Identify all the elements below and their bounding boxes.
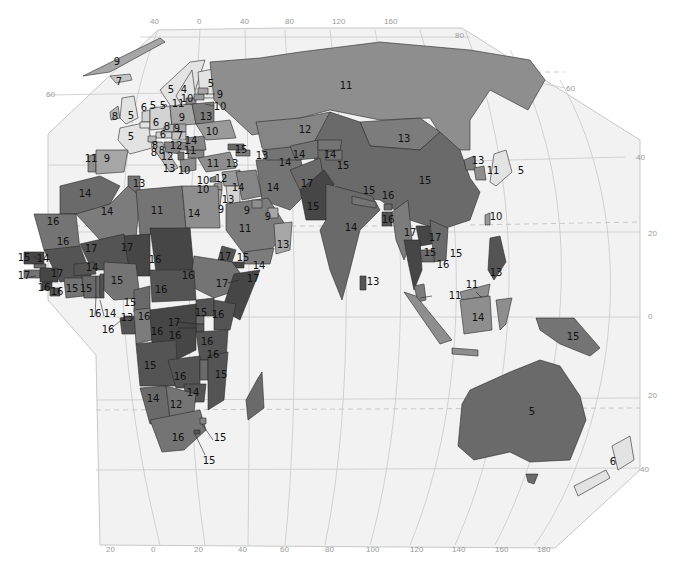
- label-morocco: 14: [79, 188, 92, 199]
- region-latvia: [194, 94, 204, 100]
- region-bangladesh: [360, 276, 366, 290]
- label-iraq: 14: [232, 182, 245, 193]
- tick-bottom-5: 80: [325, 545, 334, 554]
- label-tunisia: 13: [133, 178, 146, 189]
- tick-right-2: 40: [636, 153, 645, 162]
- label-iceland: 7: [116, 76, 122, 87]
- label-ireland: 8: [112, 111, 118, 122]
- label-gambia: 14: [37, 253, 50, 264]
- label-latvia: 10: [181, 93, 194, 104]
- label-belgium: 5: [150, 100, 156, 111]
- label-tanzania: 16: [201, 336, 214, 347]
- label-mauritania: 16: [47, 216, 60, 227]
- tick-bottom-4: 60: [280, 545, 289, 554]
- label-yemen: 15: [237, 252, 250, 263]
- tick-bottom-9: 160: [495, 545, 509, 554]
- label-egypt: 14: [188, 208, 201, 219]
- label-oman: 13: [277, 239, 290, 250]
- label-afghanistan: 17: [301, 178, 314, 189]
- label-nigeria: 15: [111, 275, 124, 286]
- label-saudi-arabia: 11: [239, 223, 252, 234]
- label-uk: 5: [128, 110, 134, 121]
- label-cambodia: 16: [437, 259, 450, 270]
- label-south-korea: 11: [487, 165, 500, 176]
- label-finland: 5: [208, 78, 214, 89]
- label-gabon: 13: [121, 312, 134, 323]
- region-south-africa: [200, 418, 206, 424]
- label-lebanon: 10: [197, 184, 210, 195]
- label-guinea: 17: [51, 268, 64, 279]
- label-mongolia: 13: [398, 133, 411, 144]
- label-kazakhstan: 12: [299, 124, 312, 135]
- label-tajikistan: 15: [337, 160, 350, 171]
- tick-top-2: 40: [240, 17, 249, 26]
- region-south-korea: [474, 166, 486, 180]
- tick-bottom-10: 180: [537, 545, 551, 554]
- label-sudan: 16: [149, 254, 162, 265]
- label-mali: 16: [57, 236, 70, 247]
- label-angola: 15: [144, 360, 157, 371]
- label-senegal: 15: [18, 252, 31, 263]
- label-namibia: 14: [147, 393, 160, 404]
- label-armenia: 13: [226, 158, 239, 169]
- tick-top-5: 160: [384, 17, 398, 26]
- label-zimbabwe: 14: [187, 387, 200, 398]
- label-croatia: 12: [161, 151, 174, 162]
- label-mozambique: 15: [215, 369, 228, 380]
- label-albania: 13: [163, 163, 176, 174]
- label-greenland: 9: [114, 56, 120, 67]
- label-malaysia-peninsula: 11: [449, 290, 462, 301]
- label-sri-lanka: 13: [367, 276, 380, 287]
- tick-bottom-1: 0: [151, 545, 156, 554]
- label-chad: 17: [121, 242, 134, 253]
- label-syria: 12: [215, 173, 228, 184]
- label-rwanda: 17: [168, 317, 181, 328]
- tick-right-3: 20: [648, 229, 657, 238]
- label-china: 15: [419, 175, 432, 186]
- tick-bottom-0: 20: [106, 545, 115, 554]
- label-germany: 6: [153, 117, 159, 128]
- label-georgia: 15: [235, 144, 248, 155]
- tick-left-0: 60: [46, 90, 55, 99]
- tick-right-6: 40: [640, 465, 649, 474]
- label-kuwait: 9: [244, 205, 250, 216]
- label-cote-divoire: 15: [66, 283, 79, 294]
- region-belgium: [140, 122, 150, 128]
- label-india: 14: [345, 222, 358, 233]
- label-guinea-bissau: 17: [18, 270, 31, 281]
- choropleth-map: 40 0 40 80 120 160 80 60 40 20 0 20 40 6…: [0, 0, 674, 568]
- region-nepal: [384, 204, 392, 210]
- label-philippines: 13: [490, 267, 503, 278]
- region-zambia: [200, 360, 208, 380]
- tick-top-1: 0: [197, 17, 202, 26]
- label-niger: 17: [85, 243, 98, 254]
- label-drc: 16: [151, 326, 164, 337]
- label-malaysia-borneo: 11: [466, 279, 479, 290]
- label-kenya: 16: [212, 309, 225, 320]
- label-myanmar: 17: [404, 227, 417, 238]
- label-algeria: 14: [101, 206, 114, 217]
- label-taiwan: 10: [490, 211, 503, 222]
- label-libya: 11: [151, 205, 164, 216]
- label-turkey: 11: [207, 158, 220, 169]
- region-rwanda: [196, 324, 204, 332]
- label-swaziland: 15: [214, 432, 227, 443]
- label-norway: 5: [168, 84, 174, 95]
- label-ukraine: 10: [206, 126, 219, 137]
- label-new-zealand: 6: [610, 456, 616, 467]
- region-ghana: [96, 276, 100, 298]
- label-north-korea: 13: [472, 155, 485, 166]
- label-bangladesh: 16: [382, 214, 395, 225]
- label-bulgaria: 11: [184, 145, 197, 156]
- label-laos: 17: [429, 232, 442, 243]
- label-kalimantan: 14: [472, 312, 485, 323]
- region-swaziland: [194, 430, 200, 434]
- label-greece: 10: [178, 165, 191, 176]
- label-pakistan: 15: [307, 201, 320, 212]
- label-south-sudan: 16: [182, 270, 195, 281]
- label-thailand: 15: [424, 247, 437, 258]
- label-portugal: 11: [85, 153, 98, 164]
- label-israel: 13: [222, 194, 235, 205]
- region-spain: [96, 150, 128, 174]
- label-benin: 14: [104, 308, 117, 319]
